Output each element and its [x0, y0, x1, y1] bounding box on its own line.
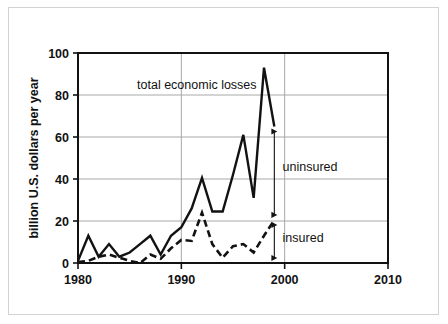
- ytick-label-0: 0: [62, 257, 69, 271]
- xtick-label-2000: 2000: [271, 273, 299, 287]
- ytick-label-40: 40: [55, 173, 69, 187]
- chart-figure: 0204060801001980199020002010billion U.S.…: [0, 0, 448, 324]
- xtick-label-1990: 1990: [167, 273, 195, 287]
- annotation-label-total-economic-losses: total economic losses: [137, 78, 257, 92]
- xtick-label-1980: 1980: [64, 273, 92, 287]
- ytick-label-80: 80: [55, 89, 69, 103]
- annotation-label-uninsured: uninsured: [283, 160, 338, 174]
- ytick-label-100: 100: [48, 47, 69, 61]
- annotation-label-insured: insured: [283, 231, 324, 245]
- series-line-insured-losses: [78, 213, 274, 263]
- line-chart: 0204060801001980199020002010billion U.S.…: [0, 0, 448, 324]
- xtick-label-2010: 2010: [374, 273, 402, 287]
- ytick-label-20: 20: [55, 215, 69, 229]
- series-line-total-economic-losses: [78, 68, 274, 261]
- ytick-label-60: 60: [55, 131, 69, 145]
- y-axis-title: billion U.S. dollars per year: [27, 77, 41, 238]
